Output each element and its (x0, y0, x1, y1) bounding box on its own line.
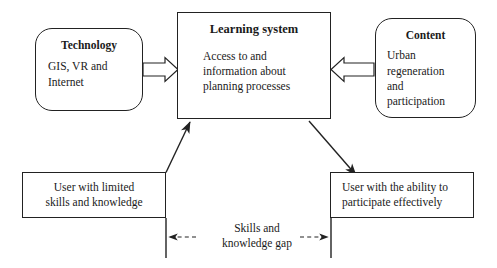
arrow-technology-to-learning-system (143, 58, 178, 82)
label-skills-knowledge-gap: Skills andknowledge gap (197, 221, 317, 251)
node-content: Content Urbanregenerationandparticipatio… (375, 18, 476, 118)
node-content-body: Urbanregenerationandparticipation (376, 48, 475, 109)
node-technology-title: Technology (36, 38, 142, 52)
node-learning-system: Learning system Access to andinformation… (177, 12, 331, 119)
node-technology: Technology GIS, VR andInternet (35, 28, 143, 111)
node-user-able: User with the ability toparticipate effe… (330, 172, 474, 218)
node-user-limited-text: User with limitedskills and knowledge (23, 180, 165, 210)
node-content-title: Content (376, 28, 475, 42)
node-user-limited: User with limitedskills and knowledge (22, 172, 166, 218)
arrow-user-limited-to-learning-system (166, 122, 190, 173)
arrow-content-to-learning-system (331, 58, 374, 82)
node-learning-system-title: Learning system (178, 22, 330, 38)
arrow-learning-system-to-user-able (309, 121, 356, 175)
diagram-canvas: Technology GIS, VR andInternet Learning … (0, 0, 497, 268)
node-user-able-text: User with the ability toparticipate effe… (331, 180, 473, 210)
node-technology-body: GIS, VR andInternet (36, 59, 142, 90)
node-learning-system-body: Access to andinformation aboutplanning p… (178, 49, 330, 95)
